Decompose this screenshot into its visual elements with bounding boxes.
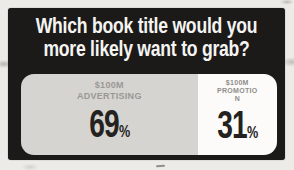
poll-title: Which book title would you more likely w… [8, 14, 285, 60]
poll-option-advertising: $100M ADVERTISING 69% [21, 74, 198, 155]
poll-card: Which book title would you more likely w… [8, 8, 285, 160]
poll-option-promotion-label-line-3: N [217, 95, 258, 103]
percent-sign: % [119, 122, 130, 141]
poll-result-bar: $100M ADVERTISING 69% $100M PROMOTIO N 3… [21, 74, 277, 155]
poll-option-advertising-percent: 69% [89, 109, 130, 147]
poll-option-promotion-label: $100M PROMOTIO N [217, 79, 258, 103]
percent-sign: % [247, 123, 258, 142]
poll-option-advertising-label: $100M ADVERTISING [77, 80, 142, 101]
poll-title-line-1: Which book title would you [36, 14, 258, 37]
poll-option-promotion-label-line-2: PROMOTIO [217, 87, 258, 95]
photo-background: Which book title would you more likely w… [0, 0, 294, 170]
photo-noise-speck [156, 165, 165, 168]
poll-option-promotion: $100M PROMOTIO N 31% [198, 74, 277, 155]
poll-title-line-2: more likely want to grab? [36, 37, 258, 60]
poll-option-advertising-label-line-2: ADVERTISING [77, 91, 142, 102]
poll-option-promotion-percent: 31% [217, 110, 258, 148]
poll-option-promotion-label-line-1: $100M [217, 79, 258, 87]
percent-value: 31 [217, 104, 247, 146]
percent-value: 69 [89, 103, 119, 145]
poll-option-advertising-label-line-1: $100M [77, 80, 142, 91]
